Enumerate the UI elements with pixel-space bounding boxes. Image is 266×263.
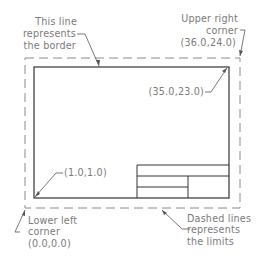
- lower-left-annotation: Lower left corner (0.0,0.0): [28, 215, 77, 249]
- limits-annotation-line-2: represents: [187, 224, 240, 235]
- inner-lower-left-coordinate: (1.0,1.0): [64, 167, 107, 178]
- leader-arrowheads: [22, 50, 243, 216]
- border-annotation-line-3: the border: [24, 40, 76, 51]
- lower-left-annotation-line-3: (0.0,0.0): [28, 238, 71, 249]
- title-block: [137, 165, 229, 198]
- limits-annotation-line-1: Dashed lines: [187, 213, 251, 224]
- lower-left-annotation-line-1: Lower left: [28, 215, 77, 226]
- limits-dashed-rectangle: [25, 58, 240, 208]
- limits-annotation-line-3: the limits: [187, 236, 234, 247]
- upper-right-annotation-line-1: Upper right: [181, 13, 238, 24]
- upper-right-annotation-line-3: (36.0,24.0): [181, 37, 236, 48]
- border-annotation-line-2: represents: [23, 28, 76, 39]
- upper-right-annotation: Upper right corner (36.0,24.0): [181, 13, 239, 48]
- drawing-limits-diagram: This line represents the border Upper ri…: [0, 0, 266, 263]
- border-annotation: This line represents the border: [23, 16, 77, 51]
- border-leader: [77, 34, 99, 66]
- leader-lines: [15, 30, 245, 232]
- border-annotation-line-1: This line: [34, 16, 77, 27]
- lower-left-annotation-line-2: corner: [28, 226, 60, 237]
- inner-upper-right-coordinate: (35.0,23.0): [149, 86, 204, 97]
- limits-annotation: Dashed lines represents the limits: [187, 213, 251, 247]
- upper-right-annotation-line-2: corner: [206, 25, 238, 36]
